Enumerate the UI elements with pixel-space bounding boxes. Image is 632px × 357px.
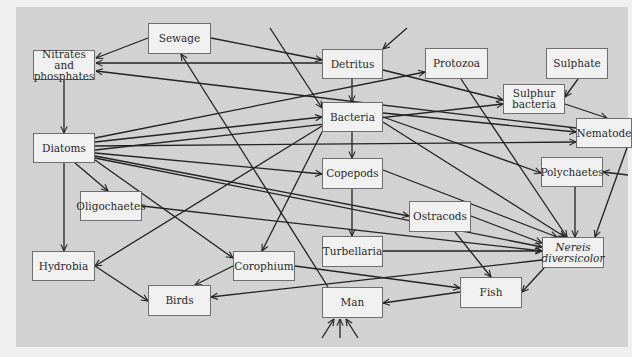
node-sewage: Sewage <box>148 23 211 54</box>
edge-external-to-polychaetes <box>603 172 628 175</box>
node-label: Copepods <box>326 168 378 179</box>
edge-diatoms-to-nereis <box>95 158 542 247</box>
node-nereis: Nereis diversicolor <box>542 237 604 268</box>
edge-ostracods-to-fish <box>455 232 491 277</box>
node-label: Birds <box>165 295 193 306</box>
node-corophium: Corophium <box>233 251 295 281</box>
edge-nereis-to-fish <box>522 268 544 292</box>
node-label: Bacteria <box>330 112 375 123</box>
node-label: Polychaetes <box>540 167 603 178</box>
edge-sulphate-to-sulphur-bacteria <box>565 79 578 97</box>
node-label: Protozoa <box>433 58 480 69</box>
node-hydrobia: Hydrobia <box>32 251 95 281</box>
edge-bacteria-to-nematodes <box>383 113 576 132</box>
node-label: Nitrates and phosphates <box>34 49 95 82</box>
node-detritus: Detritus <box>322 49 383 79</box>
node-label: Hydrobia <box>39 261 89 272</box>
edge-ostracods-to-nereis <box>471 216 542 243</box>
edge-fish-to-man <box>383 292 460 303</box>
node-label: Diatoms <box>42 143 86 154</box>
edge-bacteria-to-corophium <box>262 132 322 251</box>
node-label: Sulphate <box>553 58 601 69</box>
edge-external-to-man <box>322 319 334 338</box>
node-label: Sewage <box>159 33 201 44</box>
edge-external-to-bacteria <box>270 28 322 108</box>
edge-hydrobia-to-birds <box>95 266 148 301</box>
edge-diatoms-to-oligochaetes <box>75 163 108 191</box>
node-fish: Fish <box>460 277 522 308</box>
node-nitrates: Nitrates and phosphates <box>33 50 95 80</box>
node-label: Nereis diversicolor <box>542 242 605 264</box>
node-label: Turbellaria <box>323 246 382 257</box>
edge-diatoms-to-copepods <box>95 153 322 174</box>
node-label: Nematode <box>576 128 631 139</box>
node-label: Fish <box>480 287 503 298</box>
node-bacteria: Bacteria <box>322 102 383 132</box>
node-label: Man <box>341 297 365 308</box>
node-label: Sulphur bacteria <box>512 88 556 110</box>
edge-diatoms-to-bacteria <box>95 117 322 142</box>
node-label: Corophium <box>234 261 293 272</box>
node-oligochaetes: Oligochaetes <box>80 191 142 221</box>
edge-corophium-to-birds <box>195 266 233 285</box>
node-polychaetes: Polychaetes <box>541 157 603 187</box>
node-ostracods: Ostracods <box>409 201 471 232</box>
node-protozoa: Protozoa <box>425 48 488 79</box>
node-birds: Birds <box>148 285 211 316</box>
node-man: Man <box>322 287 383 318</box>
node-nematodes: Nematode <box>576 118 632 148</box>
node-sulphate: Sulphate <box>546 48 608 79</box>
node-label: Ostracods <box>413 211 467 222</box>
edge-bacteria-to-polychaetes <box>383 117 541 173</box>
edge-external-to-detritus <box>383 28 407 49</box>
edge-sewage-to-nitrates <box>96 38 148 58</box>
node-diatoms: Diatoms <box>33 133 95 163</box>
node-turbellaria: Turbellaria <box>322 236 383 267</box>
node-sulphur-bacteria: Sulphur bacteria <box>503 84 565 114</box>
edge-sulphur-bacteria-to-nematodes <box>565 104 607 118</box>
node-label: Oligochaetes <box>76 201 145 212</box>
edge-sewage-to-detritus <box>211 38 322 60</box>
node-copepods: Copepods <box>322 158 383 189</box>
edge-external-to-man <box>346 319 358 338</box>
node-label: Detritus <box>331 59 375 70</box>
